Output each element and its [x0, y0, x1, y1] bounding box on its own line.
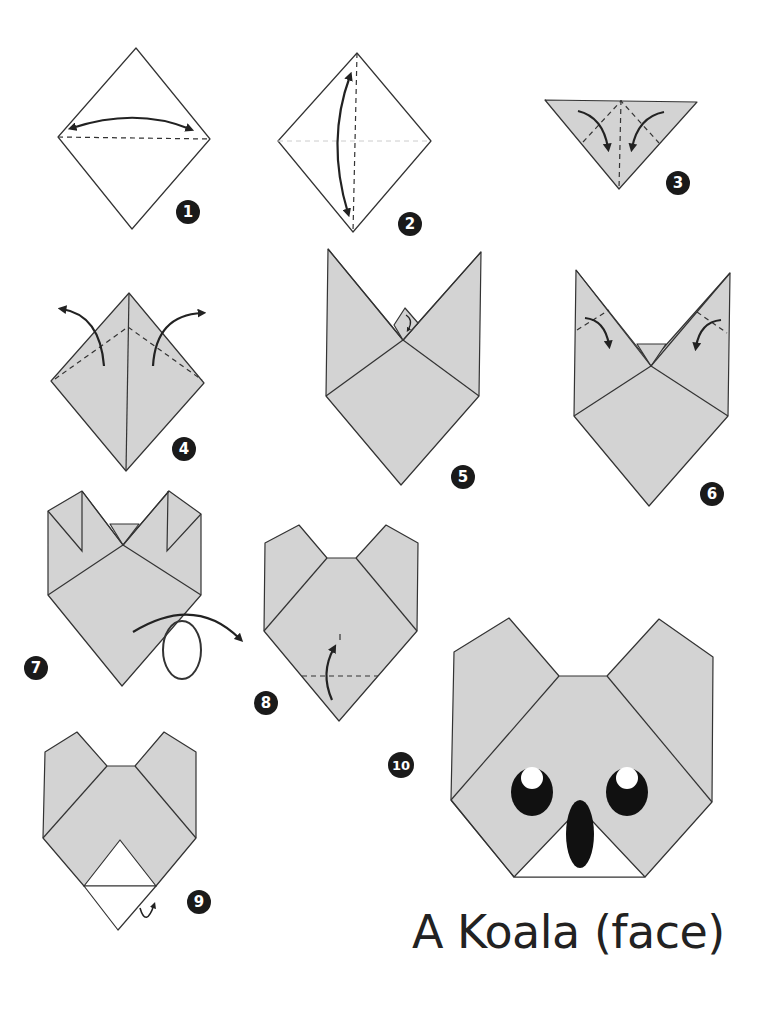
svg-text:10: 10: [392, 758, 410, 773]
step-6: 6: [574, 270, 730, 506]
svg-text:7: 7: [31, 659, 41, 677]
nose: [566, 800, 594, 868]
svg-text:4: 4: [179, 440, 189, 458]
svg-text:8: 8: [261, 694, 271, 712]
step-8: 8: [254, 525, 418, 721]
svg-text:3: 3: [673, 174, 683, 192]
diagram-title: A Koala (face): [412, 905, 725, 959]
svg-text:6: 6: [707, 485, 717, 503]
step-5: 5: [326, 249, 481, 489]
step-4: 4: [51, 293, 204, 471]
step-badge-5: 5: [451, 465, 475, 489]
step-badge-10: 10: [388, 752, 414, 778]
svg-text:9: 9: [194, 893, 204, 911]
step-badge-3: 3: [666, 171, 690, 195]
step-badge-7: 7: [24, 656, 48, 680]
step-badge-8: 8: [254, 691, 278, 715]
step-badge-2: 2: [398, 212, 422, 236]
step-1: 1: [58, 48, 210, 229]
step-9: 9: [43, 732, 211, 930]
svg-text:5: 5: [458, 468, 468, 486]
step-7: 7: [24, 491, 240, 686]
svg-text:1: 1: [183, 203, 193, 221]
svg-text:2: 2: [405, 215, 415, 233]
step-10-koala-face: 10: [388, 618, 713, 877]
step-2: 2: [278, 53, 431, 236]
step-3: 3: [545, 100, 697, 195]
step-badge-9: 9: [187, 890, 211, 914]
step-badge-6: 6: [700, 482, 724, 506]
step-badge-1: 1: [176, 200, 200, 224]
step-badge-4: 4: [172, 437, 196, 461]
origami-diagram: 1 2 3 4: [0, 0, 770, 1011]
